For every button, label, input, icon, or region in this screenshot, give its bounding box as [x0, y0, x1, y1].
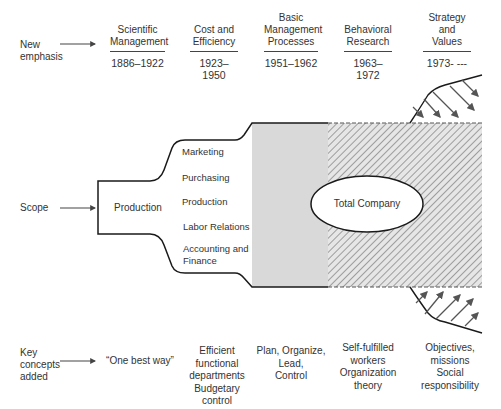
dept-production: Production [182, 196, 227, 208]
concept-line: theory [336, 380, 400, 393]
scope-initial-production: Production [114, 202, 162, 214]
dept-labor-relations: Labor Relations [183, 221, 250, 233]
dept-purchasing: Purchasing [182, 172, 230, 184]
concept-line: departments [186, 370, 248, 383]
concept-cost-efficiency: Efficient functional departments Budgeta… [186, 345, 248, 408]
concept-basic-management: Plan, Organize, Lead, Control [256, 345, 326, 383]
concept-line: Efficient [186, 345, 248, 358]
concept-line: Objectives, [414, 342, 486, 355]
flare-outline-bottom [410, 287, 482, 333]
dept-finance-line: Finance [183, 255, 249, 267]
dept-accounting-finance: Accounting and Finance [183, 243, 249, 267]
concept-line: Plan, Organize, [256, 345, 326, 358]
concept-line: Budgetary [186, 383, 248, 396]
concept-line: Social [414, 367, 486, 380]
concept-line: “One best way” [100, 355, 180, 368]
concept-line: Control [256, 370, 326, 383]
concept-scientific-management: “One best way” [100, 355, 180, 368]
dept-accounting-line: Accounting and [183, 243, 249, 255]
concept-line: functional [186, 358, 248, 371]
concept-line: Self-fulfilled [336, 342, 400, 355]
concept-line: missions [414, 355, 486, 368]
dept-marketing: Marketing [182, 146, 224, 158]
concept-line: control [186, 395, 248, 408]
flare-outline-top [410, 75, 482, 123]
concept-behavioral-research: Self-fulfilled workers Organization theo… [336, 342, 400, 392]
concept-line: workers [336, 355, 400, 368]
concept-line: Lead, [256, 358, 326, 371]
concept-line: Organization [336, 367, 400, 380]
total-company-label: Total Company [311, 198, 423, 210]
concept-line: responsibility [414, 380, 486, 393]
concept-strategy-values: Objectives, missions Social responsibili… [414, 342, 486, 392]
